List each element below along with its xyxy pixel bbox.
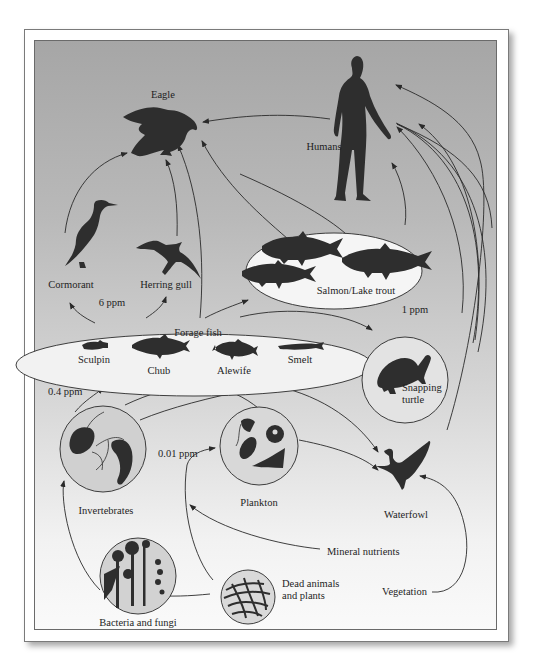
arrow-plankton-to-waterfowl <box>299 440 378 470</box>
label-dead-animals: Dead animals <box>282 578 339 589</box>
arrow-forage-to-turtle <box>240 311 372 330</box>
label-humans: Humans <box>307 141 342 152</box>
arrow-forage-to-salmon <box>205 300 248 318</box>
label-concentration-6ppm: 6 ppm <box>99 297 126 308</box>
label-alewife: Alewife <box>217 365 251 376</box>
label-concentration-1ppm: 1 ppm <box>402 304 429 315</box>
label-snapping: Snapping <box>402 382 442 393</box>
arrow-mineral-to-plankton <box>190 505 320 549</box>
label-plankton: Plankton <box>240 497 278 508</box>
line-backbone <box>397 124 492 228</box>
arrow-vegetation-to-waterfowl <box>420 476 467 592</box>
label-concentration-0-4ppm: 0.4 ppm <box>48 386 82 397</box>
human-icon <box>334 56 391 201</box>
label-mineral-nutrients: Mineral nutrients <box>327 546 400 557</box>
arrow-forage-to-gull <box>146 297 166 318</box>
arrow-bacteria-to-invert <box>63 481 100 590</box>
label-vegetation: Vegetation <box>382 586 428 597</box>
arrow-forage-to-eagle <box>178 145 202 318</box>
waterfowl-icon <box>376 441 430 490</box>
label-turtle: turtle <box>402 394 424 405</box>
label-sculpin: Sculpin <box>78 354 111 365</box>
label-eagle: Eagle <box>151 89 175 100</box>
arrow-salmon-to-humans <box>392 163 406 225</box>
label-forage-fish: Forage fish <box>174 327 222 338</box>
herring-gull-icon <box>136 241 201 279</box>
arrow-gull-to-eagle <box>166 160 177 236</box>
cormorant-icon <box>65 200 118 268</box>
label-invertebrates: Invertebrates <box>79 505 134 516</box>
label-cormorant: Cormorant <box>48 279 94 290</box>
label-herring-gull: Herring gull <box>140 279 192 290</box>
label-concentration-0-01ppm: 0.01 ppm <box>158 448 198 459</box>
eagle-icon <box>123 107 197 156</box>
label-bacteria-fungi: Bacteria and fungi <box>99 617 177 628</box>
arrow-forage-to-cormorant <box>70 303 95 323</box>
arrow-dead-to-plankton <box>185 448 215 580</box>
label-smelt: Smelt <box>288 354 313 365</box>
food-web-diagram: Eagle Humans Cormorant Herring gull 6 pp… <box>0 0 539 669</box>
plankton-circle <box>220 407 298 485</box>
arrow-humans-to-eagle <box>203 115 330 122</box>
label-salmon-lake-trout: Salmon/Lake trout <box>317 285 396 296</box>
label-chub: Chub <box>148 365 171 376</box>
label-and-plants: and plants <box>282 590 325 601</box>
label-waterfowl: Waterfowl <box>384 509 428 520</box>
